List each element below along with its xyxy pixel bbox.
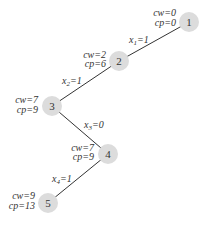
node-4: 4 cw=7 cp=9	[71, 142, 118, 164]
edge-label-x1: x1=1	[128, 34, 149, 47]
node-4-label: 4	[105, 148, 111, 160]
node-1-cp: cp=0	[155, 17, 176, 28]
node-3-label: 3	[49, 100, 55, 112]
node-1: 1 cw=0 cp=0	[153, 7, 199, 32]
node-5-cp: cp=13	[9, 200, 35, 211]
state-space-tree: x1=1 x2=1 x3=0 x4=1 1 cw=0 cp=0 2 cw=2 c…	[0, 0, 211, 226]
edge-label-x4: x4=1	[51, 173, 72, 186]
node-3-cp: cp=9	[17, 104, 38, 115]
node-2: 2 cw=2 cp=6	[83, 49, 129, 71]
edge-label-x3: x3=0	[83, 119, 104, 132]
node-5: 5 cw=9 cp=13	[9, 190, 58, 213]
node-2-cp: cp=6	[85, 58, 106, 69]
edge-label-x2: x2=1	[61, 75, 82, 88]
node-5-label: 5	[45, 197, 51, 209]
node-4-cp: cp=9	[73, 151, 94, 162]
node-2-label: 2	[116, 55, 122, 67]
node-3: 3 cw=7 cp=9	[15, 94, 62, 116]
node-1-label: 1	[186, 16, 192, 28]
